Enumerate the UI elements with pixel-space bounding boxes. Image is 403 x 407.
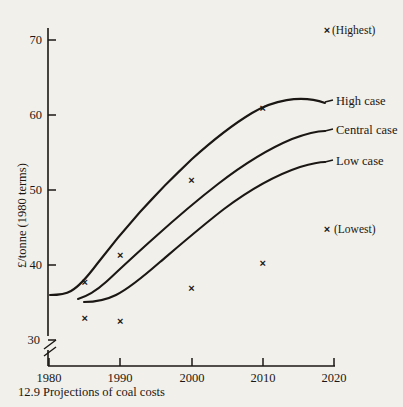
chart-plot-area	[0, 0, 403, 407]
series-label-central-case: Central case	[336, 124, 397, 137]
x-tick-label-2010: 2010	[241, 372, 285, 385]
y-tick-label-30: 30	[18, 334, 40, 347]
coal-cost-projection-figure: 70 60 50 40 30 £/tonne (1980 terms) 1980…	[0, 0, 403, 407]
figure-caption: 12.9 Projections of coal costs	[18, 386, 165, 399]
lowest-key-marker-icon: ×	[324, 224, 330, 235]
highest-key-label: (Highest)	[332, 25, 375, 37]
x-tick-label-2000: 2000	[170, 372, 214, 385]
x-tick-label-2020: 2020	[312, 372, 356, 385]
central-case-leader	[325, 129, 333, 131]
legend-leader-lines	[325, 100, 333, 162]
high-case-curve-fix	[50, 102, 325, 295]
lowest-key-label: (Lowest)	[334, 224, 376, 236]
scatter-marker-highest-2000: ×	[188, 175, 194, 186]
high-case-leader	[325, 100, 333, 102]
x-tick-label-1990: 1990	[98, 372, 142, 385]
series-label-high-case: High case	[336, 95, 386, 108]
scatter-marker-lowest-1990: ×	[117, 315, 123, 326]
series-curves	[50, 99, 325, 302]
y-tick-label-70: 70	[20, 34, 42, 47]
scatter-marker-lowest-2010: ×	[260, 257, 266, 268]
low-case-curve	[84, 162, 325, 302]
high-case-curve	[50, 99, 325, 295]
x-tick-label-1980: 1980	[27, 372, 71, 385]
scatter-marker-highest-2010: ×	[260, 102, 266, 113]
y-axis-break-mark	[44, 340, 56, 356]
y-axis-title: £/tonne (1980 terms)	[16, 163, 29, 268]
series-label-low-case: Low case	[336, 155, 384, 168]
highest-key-marker-icon: ×	[324, 25, 330, 36]
low-case-leader	[325, 160, 333, 162]
scatter-marker-lowest-2000: ×	[188, 283, 194, 294]
scatter-marker-highest-1990: ×	[117, 250, 123, 261]
scatter-marker-highest-1985: ×	[81, 277, 87, 288]
central-case-curve	[78, 131, 325, 299]
y-tick-label-60: 60	[20, 109, 42, 122]
scatter-marker-lowest-1985: ×	[81, 313, 87, 324]
